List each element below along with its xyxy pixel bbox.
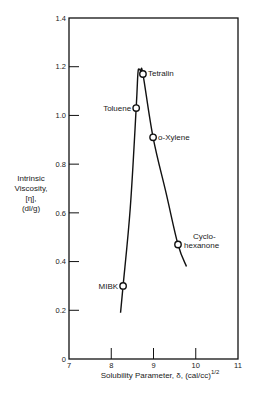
data-point-o-xylene: o-Xylene (150, 133, 190, 142)
point-marker-icon (140, 71, 146, 77)
x-label-text: Solubility Parameter, δ, (cal/cc) (101, 371, 211, 380)
point-label: Tetralin (148, 69, 174, 78)
data-points: MIBKTolueneTetralino-XyleneCyclo-hexanon… (99, 69, 220, 291)
y-tick-label: 1.0 (56, 111, 66, 120)
y-label-line: Viscosity, (2, 184, 60, 194)
y-axis-label: Intrinsic Viscosity, [η], (dl/g) (2, 174, 60, 214)
point-label: Toluene (103, 104, 132, 113)
y-label-line: [η], (2, 194, 60, 204)
point-label: o-Xylene (158, 133, 190, 142)
data-point-toluene: Toluene (103, 104, 139, 113)
y-tick-label: 0.8 (56, 160, 66, 169)
point-marker-icon (133, 105, 139, 111)
y-tick-label: 0.4 (56, 257, 66, 266)
y-label-line: Intrinsic (2, 174, 60, 184)
y-tick-label: 0 (62, 355, 66, 364)
x-label-superscript: 1/2 (211, 369, 219, 375)
point-label: MIBK (99, 282, 119, 291)
point-marker-icon (150, 134, 156, 140)
data-point-tetralin: Tetralin (140, 69, 174, 78)
data-point-cyclohexanone: Cyclo-hexanone (175, 232, 220, 250)
y-tick-label: 1.2 (56, 62, 66, 71)
point-marker-icon (175, 241, 181, 247)
y-tick-label: 1.4 (56, 14, 66, 23)
point-label: hexanone (184, 241, 220, 250)
point-marker-icon (120, 283, 126, 289)
y-tick-label: 0.2 (56, 306, 66, 315)
x-axis-label: Solubility Parameter, δ, (cal/cc)1/2 (60, 369, 254, 380)
data-point-mibk: MIBK (99, 282, 127, 291)
point-label: Cyclo- (193, 232, 216, 241)
y-label-line: (dl/g) (2, 204, 60, 214)
